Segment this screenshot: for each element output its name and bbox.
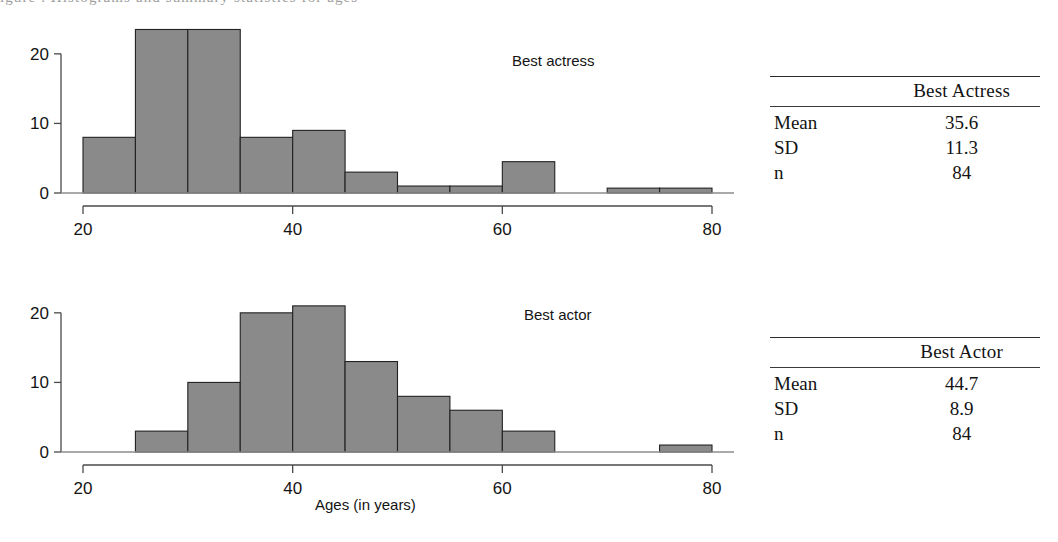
histogram-bar	[450, 186, 502, 193]
stat-label-n: n	[770, 160, 883, 185]
y-tick-label: 0	[40, 184, 49, 203]
panel-label-best-actor: Best actor	[524, 306, 592, 323]
summary-table-best-actress: Best Actress Mean 35.6 SD 11.3 n 84	[770, 76, 1040, 186]
y-tick-label: 20	[30, 45, 49, 64]
histogram-best-actor: 0102020406080	[0, 267, 740, 502]
x-tick-label: 40	[283, 220, 302, 239]
histogram-bar	[135, 431, 187, 452]
summary-table-best-actor: Best Actor Mean 44.7 SD 8.9 n 84	[770, 337, 1040, 447]
x-tick-label: 20	[74, 479, 93, 498]
histogram-bar	[293, 306, 345, 452]
histogram-bar	[607, 188, 659, 193]
y-tick-label: 10	[30, 114, 49, 133]
stats-table: Best Actress Mean 35.6 SD 11.3 n 84	[770, 76, 1040, 186]
histogram-bar	[502, 431, 554, 452]
table-header-row: Best Actor	[770, 338, 1040, 367]
x-tick-label: 80	[703, 220, 722, 239]
y-tick-label: 0	[40, 443, 49, 462]
stats-table: Best Actor Mean 44.7 SD 8.9 n 84	[770, 337, 1040, 447]
stat-value-sd: 11.3	[883, 135, 1040, 160]
histogram-panel-best-actor: 0102020406080 Best actor	[0, 267, 740, 507]
x-tick-label: 60	[493, 220, 512, 239]
table-header-blank	[770, 338, 883, 367]
table-row: SD 8.9	[770, 396, 1040, 421]
stat-value-sd: 8.9	[883, 396, 1040, 421]
x-tick-label: 40	[283, 479, 302, 498]
histogram-bar	[83, 137, 135, 193]
histogram-bar	[398, 396, 450, 452]
stat-value-n: 84	[883, 421, 1040, 446]
chart-group: 0102020406080	[30, 304, 734, 498]
y-tick-label: 20	[30, 304, 49, 323]
histogram-bar	[660, 188, 712, 193]
x-tick-label: 60	[493, 479, 512, 498]
table-row: SD 11.3	[770, 135, 1040, 160]
histogram-bar	[188, 29, 240, 193]
stat-label-sd: SD	[770, 396, 883, 421]
stat-label-n: n	[770, 421, 883, 446]
histogram-bar	[188, 382, 240, 452]
stat-label-sd: SD	[770, 135, 883, 160]
cropped-caption-fragment: igure . Histograms and summary statistic…	[0, 0, 740, 5]
stat-label-mean: Mean	[770, 371, 883, 396]
histogram-bar	[660, 445, 712, 452]
stat-label-mean: Mean	[770, 110, 883, 135]
table-header-row: Best Actress	[770, 77, 1040, 106]
table-header-blank	[770, 77, 883, 106]
histogram-bar	[450, 410, 502, 452]
panel-label-best-actress: Best actress	[512, 52, 595, 69]
table-header-title: Best Actress	[883, 77, 1040, 106]
table-row: Mean 35.6	[770, 110, 1040, 135]
stat-value-mean: 35.6	[883, 110, 1040, 135]
histogram-bar	[502, 162, 554, 193]
histogram-bar	[240, 137, 292, 193]
x-axis-title: Ages (in years)	[315, 496, 416, 513]
chart-group: 0102020406080	[30, 29, 734, 239]
histogram-bar	[345, 362, 397, 452]
histogram-panel-best-actress: 0102020406080 Best actress	[0, 8, 740, 243]
table-row: n 84	[770, 421, 1040, 446]
histogram-best-actress: 0102020406080	[0, 8, 740, 243]
histogram-bar	[135, 29, 187, 193]
histogram-bar	[293, 130, 345, 193]
stat-value-mean: 44.7	[883, 371, 1040, 396]
table-header-title: Best Actor	[883, 338, 1040, 367]
x-tick-label: 20	[74, 220, 93, 239]
histogram-bar	[398, 186, 450, 193]
figure-page: igure . Histograms and summary statistic…	[0, 0, 1058, 542]
stat-value-n: 84	[883, 160, 1040, 185]
histogram-bar	[345, 172, 397, 193]
histogram-bar	[240, 313, 292, 452]
x-tick-label: 80	[703, 479, 722, 498]
table-row: Mean 44.7	[770, 371, 1040, 396]
y-tick-label: 10	[30, 373, 49, 392]
table-row: n 84	[770, 160, 1040, 185]
